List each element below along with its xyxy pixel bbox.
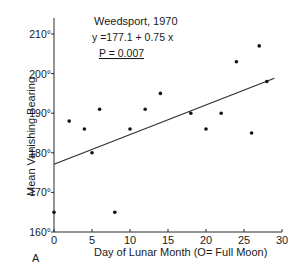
x-tick-label: 0 [51,234,57,246]
data-point [257,44,261,48]
x-tick-label: 30 [276,234,288,246]
data-point [189,111,193,115]
data-point [235,60,239,64]
x-tick-label: 25 [238,234,250,246]
chart-title: Weedsport, 1970 [94,15,178,27]
x-tick-label: 15 [162,234,174,246]
tick-labels: 051015202530160°170°180°190°200°210° [29,28,288,246]
data-point [143,107,147,111]
data-point [219,111,223,115]
x-tick-label: 10 [124,234,136,246]
y-tick-label: 160° [29,226,51,238]
x-tick-label: 20 [200,234,212,246]
data-point [250,131,254,135]
data-point [128,127,132,131]
scatter-chart: 051015202530160°170°180°190°200°210° Wee… [0,0,304,278]
x-axis-label: Day of Lunar Month (O= Full Moon) [94,246,267,258]
y-tick-label: 210° [29,28,51,40]
regression-line [54,78,274,164]
data-point [52,210,56,214]
data-point [83,127,87,131]
tick-marks [51,34,282,232]
y-axis-label: Mean Vanishing Bearing [25,77,37,196]
regression-line-path [54,78,274,164]
data-point [113,210,117,214]
data-point [204,127,208,131]
regression-equation: y =177.1 + 0.75 x [92,31,174,43]
x-tick-label: 5 [89,234,95,246]
data-point [265,80,269,84]
data-point [159,92,163,96]
data-point [90,151,94,155]
data-point [67,119,71,123]
panel-label: A [32,252,40,264]
axes [54,18,282,232]
data-point [98,107,102,111]
data-points [52,44,268,214]
p-value: P = 0.007 [99,47,144,59]
